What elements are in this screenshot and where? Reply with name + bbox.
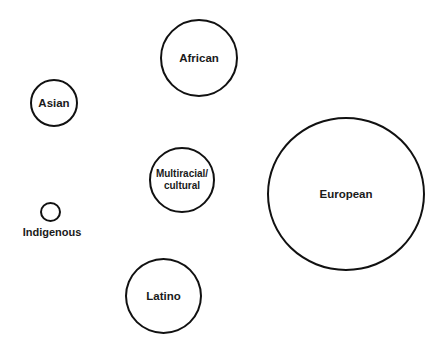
- bubble-african: African: [160, 19, 238, 97]
- bubble-label-asian: Asian: [38, 97, 69, 110]
- bubble-diagram: African Asian Multiracial/ cultural Indi…: [0, 0, 440, 344]
- bubble-asian: Asian: [30, 79, 78, 127]
- bubble-label-indigenous: Indigenous: [23, 226, 82, 239]
- bubble-multiracial: Multiracial/ cultural: [149, 147, 215, 213]
- bubble-label-european: European: [319, 188, 372, 201]
- bubble-label-african: African: [179, 52, 219, 65]
- bubble-latino: Latino: [125, 258, 202, 334]
- bubble-label-latino: Latino: [146, 290, 181, 303]
- bubble-indigenous: [40, 202, 61, 222]
- bubble-european: European: [267, 117, 425, 271]
- bubble-label-multiracial: Multiracial/ cultural: [156, 168, 208, 192]
